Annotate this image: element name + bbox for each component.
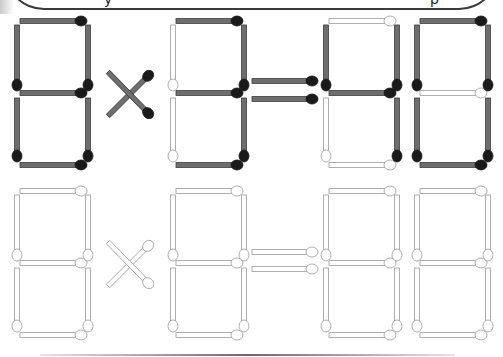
digit-1-segment-c[interactable] (239, 98, 249, 162)
match-head (475, 186, 487, 196)
digit-2-segment-d[interactable] (329, 160, 396, 170)
digit-5-segment-d[interactable] (176, 330, 243, 340)
digit-3-segment-b[interactable] (483, 25, 493, 91)
digit-5-segment-e[interactable] (168, 268, 178, 332)
match-head (392, 249, 402, 261)
digit-2-segment-f[interactable] (321, 25, 331, 91)
digit-7-segment-b[interactable] (483, 195, 493, 261)
match-head (392, 320, 402, 332)
digit-3-segment-e[interactable] (412, 98, 422, 162)
digit-7-segment-a[interactable] (420, 186, 487, 196)
digit-2-segment-g[interactable] (329, 88, 396, 98)
digit-0-segment-b[interactable] (83, 25, 93, 91)
digit-7-segment-e[interactable] (412, 268, 422, 332)
match-head (306, 94, 318, 104)
digit-7-segment-g[interactable] (420, 258, 487, 268)
equals-stick-bottom[interactable] (252, 94, 318, 104)
digit-1-segment-d[interactable] (176, 160, 243, 170)
digit-4-segment-g[interactable] (20, 258, 87, 268)
digit-6-segment-d[interactable] (329, 330, 396, 340)
digit-0-segment-a[interactable] (20, 16, 87, 26)
digit-1-segment-g[interactable] (176, 88, 243, 98)
match-head (321, 249, 331, 261)
match-head (392, 150, 402, 162)
digit-4-segment-d[interactable] (20, 330, 87, 340)
digit-6-segment-e[interactable] (321, 268, 331, 332)
digit-6-segment-b[interactable] (392, 195, 402, 261)
equals-outline-top[interactable] (252, 247, 318, 257)
digit-4-segment-f[interactable] (12, 195, 22, 261)
match-head (483, 150, 493, 162)
match-head (83, 150, 93, 162)
digit-0-segment-g[interactable] (20, 88, 87, 98)
digit-3-segment-d[interactable] (420, 160, 487, 170)
digit-3-segment-a[interactable] (420, 16, 487, 26)
match-head (306, 247, 318, 257)
match-head (12, 79, 22, 91)
digit-4-segment-b[interactable] (83, 195, 93, 261)
digit-0-segment-d[interactable] (20, 160, 87, 170)
match-head (475, 160, 487, 170)
match-head (384, 16, 396, 26)
digit-5-segment-a[interactable] (176, 186, 243, 196)
digit-3-segment-g[interactable] (420, 88, 487, 98)
digit-6-segment-g[interactable] (329, 258, 396, 268)
match-head (483, 249, 493, 261)
digit-7-segment-f[interactable] (412, 195, 422, 261)
match-head (412, 150, 422, 162)
match-head (239, 320, 249, 332)
match-head (168, 249, 178, 261)
digit-0-segment-f[interactable] (12, 25, 22, 91)
digit-2-segment-b[interactable] (392, 25, 402, 91)
match-head (306, 76, 318, 86)
match-head (412, 320, 422, 332)
match-head (321, 150, 331, 162)
match-head (75, 330, 87, 340)
match-head (12, 320, 22, 332)
digit-1-segment-a[interactable] (176, 16, 243, 26)
match-head (168, 150, 178, 162)
bottom-divider (40, 354, 455, 356)
match-head (384, 160, 396, 170)
digit-7-segment-c[interactable] (483, 268, 493, 332)
digit-1-segment-f[interactable] (168, 25, 178, 91)
equals-outline-bottom[interactable] (252, 264, 318, 274)
match-head (392, 79, 402, 91)
digit-3-segment-f[interactable] (412, 25, 422, 91)
digit-2-segment-a[interactable] (329, 16, 396, 26)
match-head (321, 320, 331, 332)
digit-5-segment-c[interactable] (239, 268, 249, 332)
match-head (239, 249, 249, 261)
digit-4-segment-e[interactable] (12, 268, 22, 332)
digit-0-segment-e[interactable] (12, 98, 22, 162)
digit-2-segment-c[interactable] (392, 98, 402, 162)
match-head (168, 79, 178, 91)
digit-5-segment-g[interactable] (176, 258, 243, 268)
match-head (231, 160, 243, 170)
match-head (75, 16, 87, 26)
digit-4-segment-a[interactable] (20, 186, 87, 196)
digit-6-segment-f[interactable] (321, 195, 331, 261)
digit-0-segment-c[interactable] (83, 98, 93, 162)
equals-stick-top[interactable] (252, 76, 318, 86)
digit-7-segment-d[interactable] (420, 330, 487, 340)
match-head (412, 79, 422, 91)
digit-5-segment-b[interactable] (239, 195, 249, 261)
digit-2-segment-e[interactable] (321, 98, 331, 162)
digit-4-segment-c[interactable] (83, 268, 93, 332)
digit-1-segment-b[interactable] (239, 25, 249, 91)
digit-6-segment-c[interactable] (392, 268, 402, 332)
matchstick-board (0, 0, 503, 357)
match-head (412, 249, 422, 261)
digit-1-segment-e[interactable] (168, 98, 178, 162)
match-head (475, 330, 487, 340)
digit-5-segment-f[interactable] (168, 195, 178, 261)
match-head (483, 320, 493, 332)
match-head (306, 264, 318, 274)
match-head (12, 249, 22, 261)
digit-6-segment-a[interactable] (329, 186, 396, 196)
digit-3-segment-c[interactable] (483, 98, 493, 162)
match-head (83, 79, 93, 91)
match-head (384, 186, 396, 196)
match-head (75, 160, 87, 170)
